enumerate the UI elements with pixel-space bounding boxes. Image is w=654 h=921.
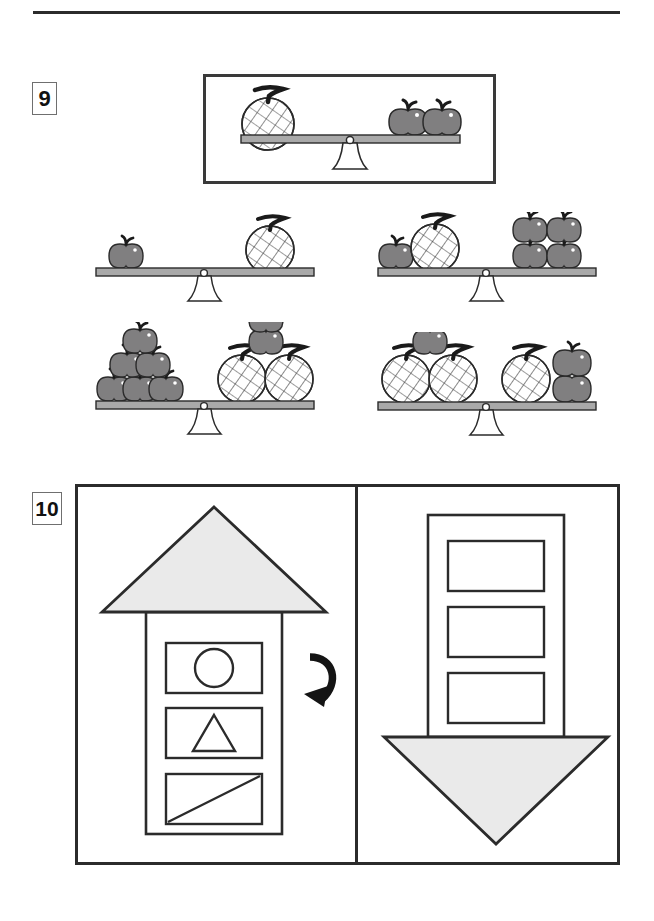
rotate-arrow [288, 645, 346, 717]
apple-icon [513, 212, 547, 242]
worksheet-page: 9 [0, 0, 654, 921]
question-number-10: 10 [32, 492, 62, 525]
option-top-right[interactable] [372, 212, 604, 304]
option-top-left[interactable] [90, 212, 322, 304]
apple-icon [389, 100, 427, 135]
cell-box [448, 607, 544, 657]
question-number-9: 9 [32, 82, 57, 115]
prompt-scale [203, 74, 496, 184]
arrow-down-figure [358, 487, 620, 862]
melon-icon [246, 216, 294, 274]
apple-icon [413, 332, 447, 354]
apple-icon [423, 100, 461, 135]
melon-icon [411, 214, 459, 272]
header-rule [33, 11, 620, 14]
apple-icon [547, 212, 581, 242]
cell-box [448, 541, 544, 591]
melon-icon [502, 345, 550, 403]
apple-icon [123, 322, 157, 353]
apple-icon [109, 236, 143, 268]
apple-icon [249, 322, 283, 332]
arrow-head [102, 507, 326, 612]
option-bottom-left[interactable] [90, 322, 322, 437]
option-bottom-right[interactable] [372, 332, 604, 437]
apple-icon [553, 342, 591, 376]
apple-icon [379, 236, 413, 268]
circle-icon [195, 649, 233, 687]
apple-icon [553, 376, 591, 402]
cell-box [448, 673, 544, 723]
arrow-head [384, 737, 608, 844]
